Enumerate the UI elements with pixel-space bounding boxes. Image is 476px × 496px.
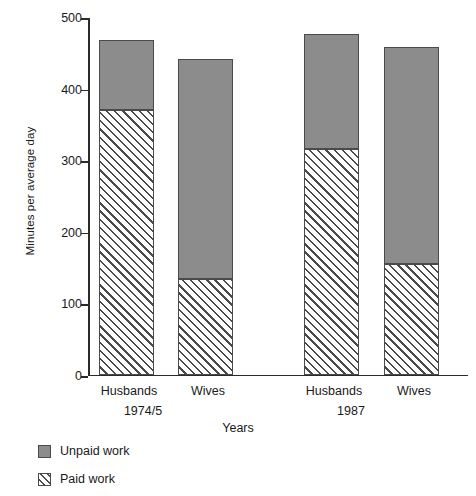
y-tick-label-0: 0 bbox=[75, 369, 82, 383]
x-group-label-1974: 1974/5 bbox=[68, 404, 218, 418]
x-axis-line bbox=[88, 375, 468, 377]
legend-label-unpaid: Unpaid work bbox=[60, 444, 129, 458]
bar-segment-unpaid bbox=[304, 34, 359, 149]
bar-segment-unpaid bbox=[178, 59, 233, 279]
plot-area: 500 400 300 200 100 0 bbox=[88, 18, 468, 376]
bar-segment-paid bbox=[178, 279, 233, 374]
y-tick-label-500: 500 bbox=[61, 11, 82, 25]
y-tick-label-100: 100 bbox=[61, 297, 82, 311]
legend-label-paid: Paid work bbox=[60, 472, 115, 486]
legend: Unpaid work Paid work bbox=[38, 437, 288, 493]
y-axis-title: Minutes per average day bbox=[24, 81, 36, 301]
x-axis-title: Years bbox=[0, 421, 476, 435]
bar-segment-paid bbox=[304, 149, 359, 375]
y-axis-line bbox=[88, 18, 90, 376]
y-tick-label-300: 300 bbox=[61, 154, 82, 168]
legend-swatch-unpaid-icon bbox=[38, 445, 51, 458]
x-group-label-1987: 1987 bbox=[276, 404, 426, 418]
y-tick-label-200: 200 bbox=[61, 226, 82, 240]
x-category-label-1: Wives bbox=[148, 384, 268, 398]
x-category-label-3: Wives bbox=[354, 384, 474, 398]
legend-swatch-paid-icon bbox=[38, 473, 51, 486]
bar-segment-unpaid bbox=[384, 47, 439, 264]
y-tick-label-400: 400 bbox=[61, 83, 82, 97]
y-tick-mark-0 bbox=[81, 376, 88, 378]
bar-segment-paid bbox=[99, 110, 154, 375]
legend-item-unpaid: Unpaid work bbox=[38, 437, 288, 465]
bar-segment-paid bbox=[384, 264, 439, 375]
stacked-bar-chart: Minutes per average day 500 400 300 200 … bbox=[0, 0, 476, 496]
legend-item-paid: Paid work bbox=[38, 465, 288, 493]
bar-segment-unpaid bbox=[99, 40, 154, 109]
